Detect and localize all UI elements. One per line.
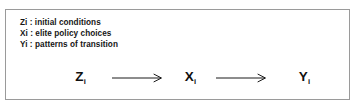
legend-separator: : — [27, 18, 34, 27]
chain-node-x-base: X — [185, 69, 194, 84]
chain-node-z-subscript: i — [84, 77, 86, 86]
chain-node-z: Zi — [62, 70, 100, 85]
chain-node-y: Yi — [286, 70, 324, 85]
arrow-z-to-x-icon — [112, 72, 166, 84]
arrow-x-to-y-icon — [216, 72, 270, 84]
chain-node-z-base: Z — [75, 69, 83, 84]
legend-item-zi: Zi : initial conditions — [20, 17, 118, 28]
legend-description-xi: elite policy choices — [35, 29, 111, 38]
figure-frame: Zi : initial conditions Xi : elite polic… — [5, 9, 350, 100]
legend-description-yi: patterns of transition — [35, 40, 118, 49]
legend-item-xi: Xi : elite policy choices — [20, 28, 118, 39]
legend-separator: : — [28, 40, 35, 49]
legend-symbol-xi: Xi — [20, 29, 28, 38]
chain-node-x: Xi — [172, 70, 210, 85]
legend-description-zi: initial conditions — [35, 18, 101, 27]
causal-chain: Zi Xi Yi — [6, 65, 349, 91]
legend: Zi : initial conditions Xi : elite polic… — [20, 17, 118, 51]
chain-node-y-base: Y — [299, 69, 308, 84]
chain-node-y-subscript: i — [308, 77, 310, 86]
chain-node-x-subscript: i — [194, 77, 196, 86]
legend-symbol-yi: Yi — [20, 40, 28, 49]
legend-item-yi: Yi : patterns of transition — [20, 39, 118, 50]
